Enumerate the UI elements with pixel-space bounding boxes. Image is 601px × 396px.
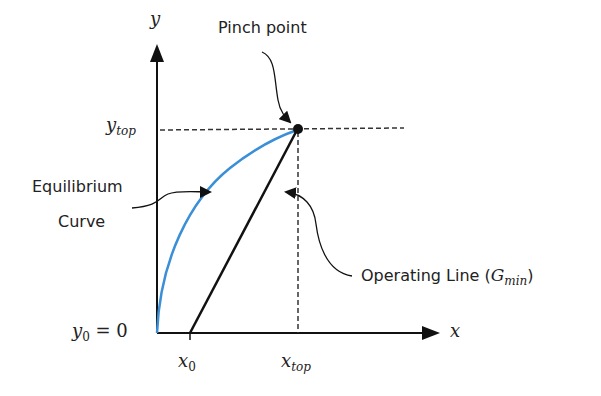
operating-line-callout-arrow	[286, 192, 352, 276]
operating-line-label: Operating Line (Gmin)	[361, 265, 534, 288]
pinch-point-label: Pinch point	[218, 18, 307, 37]
x0-label: x0	[178, 350, 196, 374]
equilibrium-curve	[157, 130, 297, 333]
x-top-label: xtop	[281, 350, 311, 374]
x-axis-label: x	[450, 320, 460, 341]
origin-label: y0 = 0	[72, 320, 128, 344]
pinch-point-marker	[293, 124, 303, 134]
y-axis-label: y	[150, 8, 160, 29]
equilibrium-callout-arrow	[132, 192, 210, 209]
pinch-point-callout-arrow	[262, 52, 290, 122]
equilibrium-label-line2: Curve	[58, 212, 105, 231]
y-top-label: ytop	[106, 114, 136, 138]
operating-line	[190, 130, 297, 333]
y-top-dashed-line	[160, 128, 404, 130]
equilibrium-label-line1: Equilibrium	[32, 177, 123, 196]
